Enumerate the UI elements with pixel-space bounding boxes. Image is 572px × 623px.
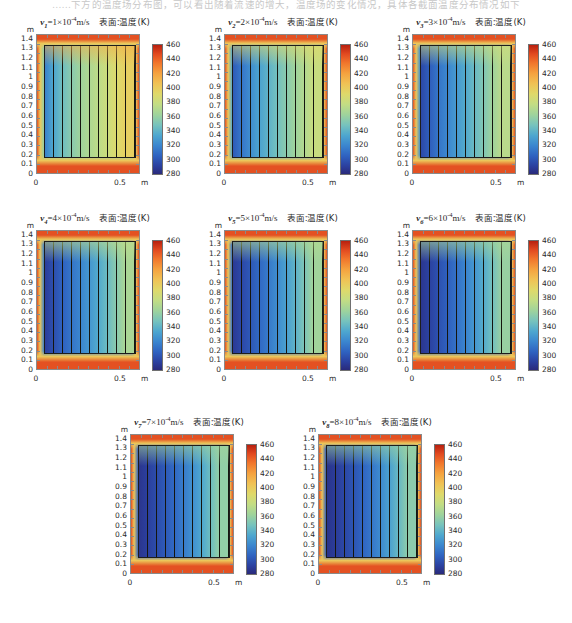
axis-tick-mark	[78, 35, 79, 38]
axis-tick-mark	[223, 570, 224, 573]
contour-band	[242, 46, 251, 157]
contour-band	[278, 242, 287, 353]
axis-tick-mark	[423, 366, 424, 369]
y-tick-label: 0.3	[103, 541, 127, 549]
x-tick-label: 0.5	[481, 374, 511, 383]
y-tick-label: 0.4	[9, 131, 33, 139]
plot-area-6	[412, 230, 516, 370]
axis-tick-mark	[413, 109, 416, 110]
y-tick-label: 0.2	[9, 151, 33, 159]
axis-tick-mark	[136, 332, 139, 333]
axis-tick-mark	[512, 90, 515, 91]
axis-tick-mark	[423, 231, 424, 234]
axis-tick-mark	[307, 231, 308, 234]
axis-tick-mark	[37, 109, 40, 110]
y-tick-label: 1	[9, 73, 33, 81]
axis-tick-mark	[98, 231, 99, 234]
y-tick-label: 1.3	[197, 44, 221, 52]
axis-tick-mark	[319, 564, 322, 565]
y-tick-label: 1.3	[103, 444, 127, 452]
colorbar-tick-label: 460	[542, 237, 568, 245]
y-tick-label: 0.5	[103, 522, 127, 530]
axis-tick-mark	[136, 81, 139, 82]
axis-tick-mark	[319, 472, 322, 473]
colorbar-tick-label: 280	[260, 570, 286, 578]
y-tick-label: 0.9	[291, 483, 315, 491]
axes-area-7: m1.41.31.21.110.90.80.70.60.50.40.30.20.…	[96, 426, 282, 607]
colorbar-tick-label: 280	[542, 366, 568, 374]
colorbar-tick-label: 320	[354, 337, 380, 345]
axis-tick-mark	[324, 268, 327, 269]
axis-tick-mark	[286, 170, 287, 173]
axis-tick-mark	[350, 435, 351, 438]
contour-band	[421, 46, 430, 157]
y-tick-label: 1.4	[385, 35, 409, 43]
plot-panel-4: v4=4×10-4m/s表面:温度(K)m1.41.31.21.110.90.8…	[2, 207, 188, 403]
axis-tick-mark	[225, 109, 228, 110]
y-tick-label: 1.4	[9, 231, 33, 239]
contour-band	[448, 46, 457, 157]
axis-tick-mark	[225, 63, 228, 64]
contour-band	[175, 446, 184, 557]
axis-tick-mark	[464, 231, 465, 234]
axis-tick-mark	[225, 277, 228, 278]
axis-tick-mark	[266, 231, 267, 234]
colorbar-tick-label: 380	[354, 294, 380, 302]
axis-tick-mark	[418, 444, 421, 445]
axis-tick-mark	[47, 35, 48, 38]
y-tick-label: 1.3	[385, 44, 409, 52]
y-tick-label: 1.1	[385, 260, 409, 268]
y-tick-label: 0	[9, 366, 33, 374]
axes-area-3: m1.41.31.21.110.90.80.70.60.50.40.30.20.…	[378, 26, 564, 207]
panel-title-1: v1=1×10-4m/s表面:温度(K)	[2, 11, 188, 26]
axis-tick-mark	[512, 314, 515, 315]
axis-tick-mark	[162, 570, 163, 573]
y-tick-label: 0.2	[385, 151, 409, 159]
y-tick-label: 1	[197, 73, 221, 81]
axis-tick-mark	[413, 155, 416, 156]
axis-tick-mark	[413, 53, 416, 54]
axis-tick-mark	[484, 170, 485, 173]
colorbar-8: 460440420400380360340320300280	[434, 444, 445, 575]
y-tick-label: 0.2	[385, 347, 409, 355]
axis-tick-mark	[119, 231, 120, 234]
axis-tick-mark	[182, 435, 183, 438]
y-axis-unit: m	[18, 26, 34, 34]
axis-tick-mark	[276, 35, 277, 38]
contour-band	[233, 46, 242, 157]
contour-band	[430, 46, 439, 157]
axis-tick-mark	[324, 249, 327, 250]
y-tick-label: 1.1	[291, 464, 315, 472]
y-tick-label: 1.1	[9, 260, 33, 268]
colorbar-tick-label: 420	[354, 70, 380, 78]
axis-tick-mark	[68, 170, 69, 173]
axis-tick-mark	[230, 499, 233, 500]
contour-band	[336, 446, 345, 557]
axis-tick-mark	[418, 518, 421, 519]
axis-tick-mark	[98, 170, 99, 173]
axis-tick-mark	[230, 472, 233, 473]
axis-tick-mark	[413, 332, 416, 333]
axis-tick-mark	[444, 35, 445, 38]
axis-tick-mark	[136, 72, 139, 73]
x-tick-label: 0	[303, 578, 333, 587]
fluid-domain	[232, 241, 324, 354]
axis-tick-mark	[225, 323, 228, 324]
y-tick-label: 1.2	[9, 54, 33, 62]
x-tick-label: 0	[397, 178, 427, 187]
y-tick-label: 0.9	[9, 83, 33, 91]
colorbar-tick-label: 340	[166, 127, 192, 135]
contour-band	[475, 242, 484, 353]
axis-tick-mark	[151, 570, 152, 573]
y-tick-label: 1.4	[197, 35, 221, 43]
colorbar-tick-label: 360	[260, 513, 286, 521]
axis-tick-mark	[225, 99, 228, 100]
axis-tick-mark	[411, 570, 412, 573]
axis-tick-mark	[230, 527, 233, 528]
colorbar-tick-label: 400	[166, 84, 192, 92]
y-axis-unit: m	[112, 426, 128, 434]
y-axis-unit: m	[18, 222, 34, 230]
y-tick-label: 0	[197, 170, 221, 178]
contour-band	[430, 242, 439, 353]
axis-tick-mark	[512, 259, 515, 260]
